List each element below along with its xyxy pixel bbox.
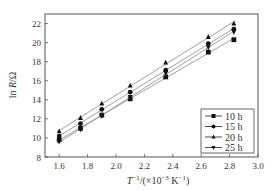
y-tick-label: 20 [32, 38, 42, 48]
x-tick-label: 1.8 [82, 161, 94, 171]
square-marker-icon [212, 114, 216, 118]
x-axis-label: T−1/(×10−3 K−1) [127, 174, 190, 187]
legend-label: 25 h [225, 142, 243, 153]
circle-marker-icon [206, 41, 211, 46]
legend-label: 20 h [225, 132, 243, 143]
y-axis-ticks: 810121416182022 [32, 19, 48, 162]
circle-marker-icon [78, 121, 83, 126]
x-label-end: ) [186, 175, 189, 187]
circle-marker-icon [57, 134, 62, 139]
y-tick-label: 8 [37, 153, 42, 163]
x-tick-label: 2.6 [196, 161, 208, 171]
triangle-up-marker-icon [163, 60, 168, 65]
chart-svg: 1.61.82.02.22.42.62.83.0 810121416182022… [0, 0, 272, 191]
x-tick-label: 2.0 [110, 161, 122, 171]
y-axis-label: ln R/Ω [7, 72, 18, 99]
y-axis-label-ln: ln [7, 88, 18, 98]
y-tick-label: 22 [32, 19, 41, 29]
legend-label: 15 h [225, 121, 243, 132]
x-tick-label: 3.0 [252, 161, 264, 171]
y-axis-label-r: R [7, 82, 18, 89]
y-axis-label-unit: /Ω [7, 72, 18, 82]
x-tick-label: 2.4 [167, 161, 179, 171]
x-tick-label: 1.6 [54, 161, 66, 171]
y-tick-label: 14 [32, 95, 42, 105]
circle-marker-icon [99, 107, 104, 112]
triangle-down-marker-icon [206, 45, 211, 50]
y-tick-label: 10 [32, 133, 42, 143]
legend-label: 10 h [225, 111, 243, 122]
x-tick-label: 2.8 [224, 161, 236, 171]
legend: 10 h15 h20 h25 h [201, 109, 254, 153]
circle-marker-icon [212, 125, 216, 129]
y-tick-label: 16 [32, 76, 42, 86]
y-tick-label: 18 [32, 57, 42, 67]
y-tick-label: 12 [32, 114, 41, 124]
circle-marker-icon [128, 90, 133, 95]
square-marker-icon [231, 37, 236, 42]
x-label-mid: /(×10 [140, 175, 162, 187]
x-tick-label: 2.2 [139, 161, 150, 171]
square-marker-icon [206, 50, 211, 55]
